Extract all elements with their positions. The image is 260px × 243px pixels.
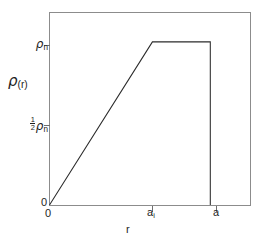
- density-profile-figure: ρn 12ρn 0 ρ(r) 0 ai a r: [0, 0, 260, 243]
- y-tick-label-half-rho-n: 12ρn: [30, 116, 48, 134]
- x-tick-label-zero: 0: [45, 208, 51, 219]
- x-tick-label-a-i: ai: [147, 207, 155, 219]
- x-tick-label-a: a: [213, 207, 219, 218]
- x-axis-title: r: [126, 224, 130, 235]
- y-axis-title: ρ(r): [8, 73, 28, 90]
- plot-frame: [50, 13, 251, 206]
- y-tick-label-rho-n: ρn: [36, 38, 48, 52]
- density-curve: [50, 42, 211, 205]
